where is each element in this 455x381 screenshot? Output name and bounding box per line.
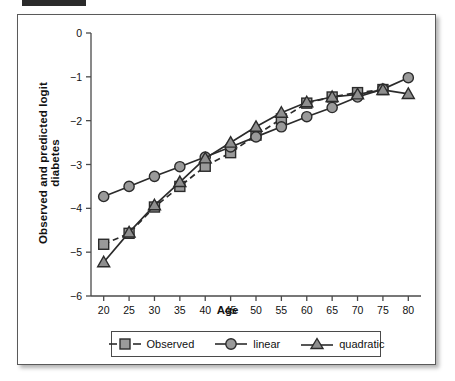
data-point-marker [149,171,159,181]
data-point-marker [403,73,413,83]
legend-label-quadratic: quadratic [339,338,384,350]
legend-label-observed: Observed [147,338,195,350]
legend-swatch-circle-solid [214,336,248,352]
data-point-marker [302,112,312,122]
legend-item-observed[interactable]: Observed [108,336,195,352]
series-line [104,90,383,245]
data-point-marker [99,239,109,249]
data-point-marker [175,162,185,172]
data-point-marker [225,137,237,147]
y-axis-title: Observed and predicted logit diabetes [37,58,61,268]
scan-artifact-bar [22,0,86,6]
legend-swatch-square-dashed [108,336,142,352]
legend-item-linear[interactable]: linear [214,336,280,352]
y-tick-label: 0 [76,27,82,39]
legend-item-quadratic[interactable]: quadratic [300,336,384,352]
legend-label-linear: linear [253,338,280,350]
data-point-marker [251,132,261,142]
data-point-marker [250,121,262,132]
data-point-marker [276,122,286,132]
plot-area: 0−1−2−3−4−5−620253035404550556065707580 … [18,15,437,366]
y-tick-label: −5 [70,246,82,258]
figure-frame: 0−1−2−3−4−5−620253035404550556065707580 … [17,14,436,365]
data-point-marker [124,181,134,191]
data-point-marker [99,191,109,201]
legend-swatch-triangle-solid [300,336,334,352]
data-point-marker [327,102,337,112]
y-tick-label: −6 [70,290,82,302]
y-tick-label: −3 [70,159,82,171]
x-axis-title: Age [18,304,437,316]
figure-page: 0−1−2−3−4−5−620253035404550556065707580 … [0,0,455,381]
chart-legend: Observed linear quadratic [111,331,381,357]
series-observed [99,85,388,250]
y-tick-label: −1 [70,71,82,83]
series-quadratic [98,84,415,267]
y-tick-label: −2 [70,115,82,127]
series-linear [99,73,414,202]
data-point-marker [275,107,287,118]
y-tick-label: −4 [70,202,82,214]
